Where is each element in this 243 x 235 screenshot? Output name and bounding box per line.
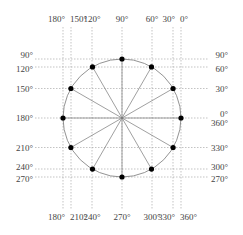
spoke-30 [122, 89, 173, 119]
left-label: 90° [20, 50, 33, 60]
spoke-330 [122, 118, 173, 148]
point-300 [149, 166, 154, 171]
top-label: 60° [146, 14, 159, 24]
right-angle-labels: 90°60°30°0°360°330°300°270° [211, 50, 229, 184]
top-label: 120° [83, 14, 101, 24]
point-150 [68, 86, 73, 91]
top-label: 90° [116, 14, 129, 24]
unit-circle-diagram: 180°150°120°90°60°30°0° 180°210°240°270°… [0, 0, 243, 235]
bottom-label: 240° [83, 212, 101, 222]
left-label: 150° [16, 84, 34, 94]
spoke-300 [122, 118, 152, 169]
left-label: 240° [16, 162, 34, 172]
right-label: 270° [211, 174, 229, 184]
point-90 [119, 56, 124, 61]
left-label: 270° [16, 174, 34, 184]
point-60 [149, 64, 154, 69]
right-label: 30° [215, 84, 228, 94]
right-label: 90° [215, 50, 228, 60]
point-270 [119, 174, 124, 179]
bottom-label: 270° [113, 212, 131, 222]
spoke-150 [71, 89, 122, 119]
left-angle-labels: 90°120°150°180°210°240°270° [16, 50, 34, 184]
top-label: 180° [48, 14, 66, 24]
bottom-label: 180° [48, 212, 66, 222]
right-label: 330° [211, 143, 229, 153]
spoke-60 [122, 67, 152, 118]
spoke-210 [71, 118, 122, 148]
top-angle-labels: 180°150°120°90°60°30°0° [48, 14, 189, 24]
spoke-120 [93, 67, 123, 118]
point-210 [68, 145, 73, 150]
top-label: 30° [162, 14, 175, 24]
top-label: 0° [180, 14, 189, 24]
point-330 [170, 145, 175, 150]
point-240 [90, 166, 95, 171]
point-30 [170, 86, 175, 91]
point-0 [178, 115, 183, 120]
bottom-label: 360° [180, 212, 198, 222]
right-label: 60° [215, 64, 228, 74]
point-180 [60, 115, 65, 120]
bottom-angle-labels: 180°210°240°270°300°330°360° [48, 212, 198, 222]
left-label: 210° [16, 143, 34, 153]
right-label: 300° [211, 162, 229, 172]
bottom-label: 330° [158, 212, 176, 222]
left-label: 180° [16, 113, 34, 123]
spoke-240 [93, 118, 123, 169]
right-label: 360° [211, 118, 229, 128]
point-120 [90, 64, 95, 69]
radial-spokes [63, 59, 181, 177]
left-label: 120° [16, 64, 34, 74]
